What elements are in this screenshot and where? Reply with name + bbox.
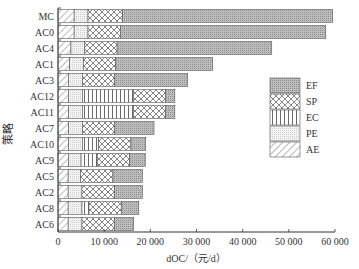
- bar-segment-ec: [82, 138, 98, 151]
- bar-segment-ef: [115, 74, 188, 87]
- bar-segment-ec: [82, 106, 133, 119]
- bar-segment-sp: [133, 90, 165, 103]
- legend-label-sp: SP: [306, 96, 318, 107]
- bar-segment-sp: [83, 58, 115, 71]
- bar-segment-ef: [131, 138, 146, 151]
- bar-segment-ae: [58, 218, 68, 231]
- category-label: AC5: [35, 171, 54, 182]
- bar-segment-sp: [82, 74, 114, 87]
- bar-segment-ae: [58, 202, 68, 215]
- bar-segment-ef: [123, 10, 333, 23]
- bar-segment-pe: [69, 138, 83, 151]
- legend-swatch-sp: [270, 94, 300, 109]
- category-label: AC1: [35, 59, 54, 70]
- bar-segment-pe: [69, 154, 81, 167]
- bar-segment-pe: [68, 186, 82, 199]
- legend-swatch-ef: [270, 78, 300, 93]
- legend-label-ae: AE: [306, 144, 319, 155]
- bar-segment-ae: [58, 26, 74, 39]
- legend-swatch-pe: [270, 126, 300, 141]
- bar-segment-ae: [58, 186, 68, 199]
- bar-segment-ef: [113, 170, 143, 183]
- bar-segment-ec: [82, 202, 89, 215]
- bar-segment-ef: [115, 122, 154, 135]
- category-label: AC7: [35, 123, 54, 134]
- bar-segment-ae: [58, 10, 74, 23]
- bar-segment-ec: [82, 90, 133, 103]
- bar-segment-ae: [58, 170, 68, 183]
- bar-segment-sp: [89, 202, 121, 215]
- bar-segment-sp: [133, 106, 165, 119]
- x-tick-label: 60 000: [321, 236, 349, 247]
- bar-segment-ae: [58, 90, 69, 103]
- category-label: AC6: [35, 219, 54, 230]
- x-tick-label: 20 000: [137, 236, 165, 247]
- bar-segment-ef: [114, 218, 133, 231]
- legend-label-pe: PE: [306, 128, 318, 139]
- category-label: AC11: [30, 107, 54, 118]
- bar-segment-sp: [99, 138, 131, 151]
- bar-segment-sp: [88, 26, 120, 39]
- bar-segment-sp: [97, 154, 129, 167]
- bar-segment-ef: [166, 90, 175, 103]
- bar-segment-ef: [121, 202, 139, 215]
- x-tick-label: 30 000: [183, 236, 211, 247]
- bar-segment-sp: [82, 122, 114, 135]
- bar-segment-pe: [68, 218, 82, 231]
- x-tick-label: 10 000: [90, 236, 118, 247]
- stacked-bar-chart: MCAC0AC4AC1AC3AC12AC11AC7AC10AC9AC5AC2AC…: [0, 0, 359, 269]
- bar-segment-sp: [82, 218, 114, 231]
- bar-segment-pe: [74, 26, 88, 39]
- bar-segment-pe: [71, 42, 85, 55]
- x-axis-label: dOC/（元/d）: [166, 253, 225, 264]
- bar-segment-ae: [58, 122, 69, 135]
- bar-segment-pe: [69, 106, 83, 119]
- legend-label-ec: EC: [306, 112, 319, 123]
- bar-segment-ef: [130, 154, 146, 167]
- category-label: AC9: [35, 155, 54, 166]
- category-label: AC10: [30, 139, 54, 150]
- legend: EFSPECPEAE: [270, 78, 319, 157]
- y-axis-label: 策略: [1, 123, 14, 145]
- category-label: AC8: [35, 203, 54, 214]
- bar-segment-ef: [116, 58, 213, 71]
- bar-segment-ae: [58, 138, 69, 151]
- bar-segment-sp: [88, 10, 123, 23]
- bar-segment-ae: [58, 42, 71, 55]
- bar-segment-sp: [81, 170, 113, 183]
- category-label: AC12: [30, 91, 54, 102]
- x-tick-label: 40 000: [229, 236, 257, 247]
- bar-segment-ef: [117, 42, 272, 55]
- category-label: AC4: [35, 43, 54, 54]
- category-label: AC0: [35, 27, 54, 38]
- legend-swatch-ae: [270, 142, 300, 157]
- bar-segment-pe: [69, 90, 83, 103]
- bar-segment-pe: [68, 170, 80, 183]
- legend-label-ef: EF: [306, 80, 318, 91]
- bar-segment-sp: [82, 186, 114, 199]
- bar-segment-ae: [58, 106, 69, 119]
- bar-segment-ef: [114, 186, 142, 199]
- bar-segment-pe: [69, 122, 83, 135]
- bar-segment-pe: [68, 202, 82, 215]
- bar-segment-ec: [81, 154, 97, 167]
- bar-segment-ae: [58, 154, 69, 167]
- bar-segment-ef: [166, 106, 175, 119]
- category-label: AC3: [35, 75, 54, 86]
- category-label: AC2: [35, 187, 54, 198]
- bar-segment-pe: [74, 10, 88, 23]
- bar-segment-ae: [58, 58, 70, 71]
- bar-segment-ef: [120, 26, 325, 39]
- legend-swatch-ec: [270, 110, 300, 125]
- bar-segment-sp: [85, 42, 117, 55]
- bar-segment-pe: [70, 58, 84, 71]
- bar-segment-ae: [58, 74, 69, 87]
- category-label: MC: [38, 11, 54, 22]
- x-tick-label: 0: [56, 236, 61, 247]
- bar-segment-pe: [69, 74, 83, 87]
- x-tick-label: 50 000: [275, 236, 303, 247]
